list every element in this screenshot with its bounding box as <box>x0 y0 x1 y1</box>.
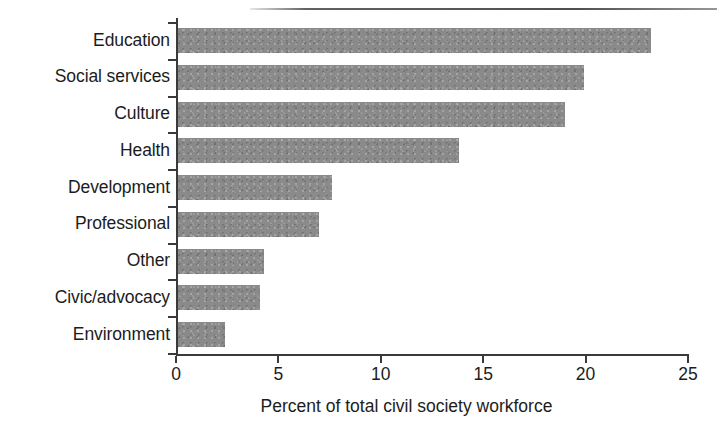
y-axis-tick <box>168 279 177 281</box>
category-label: Professional <box>2 215 170 233</box>
x-axis-tick-label: 5 <box>248 366 308 384</box>
x-axis-tick <box>585 356 587 363</box>
x-axis-tick <box>277 356 279 363</box>
category-label: Civic/advocacy <box>2 289 170 307</box>
bar <box>176 65 584 90</box>
x-axis-tick-label: 0 <box>146 366 206 384</box>
x-axis-title: Percent of total civil society workforce <box>0 396 717 417</box>
category-label: Development <box>2 179 170 197</box>
y-axis-line <box>176 18 178 355</box>
y-axis-tick <box>168 206 177 208</box>
category-label: Other <box>2 252 170 270</box>
x-axis-tick <box>687 356 689 363</box>
x-axis-tick <box>380 356 382 363</box>
x-axis-tick-label: 25 <box>658 366 717 384</box>
x-axis-tick-label: 20 <box>556 366 616 384</box>
x-axis-tick-label: 10 <box>351 366 411 384</box>
y-axis-tick <box>168 59 177 61</box>
category-axis-labels: EducationSocial servicesCultureHealthDev… <box>0 0 170 360</box>
y-axis-tick <box>168 96 177 98</box>
bar <box>176 138 459 163</box>
bar <box>176 249 264 274</box>
bar <box>176 28 651 53</box>
category-label: Health <box>2 142 170 160</box>
x-axis-line <box>176 354 689 356</box>
category-label: Education <box>2 32 170 50</box>
x-axis-tick-label: 15 <box>453 366 513 384</box>
category-label: Environment <box>2 326 170 344</box>
plot-area <box>176 18 688 354</box>
category-label: Culture <box>2 105 170 123</box>
x-axis-tick <box>175 356 177 363</box>
bar <box>176 285 260 310</box>
horizontal-bar-chart: EducationSocial servicesCultureHealthDev… <box>0 0 717 436</box>
y-axis-tick <box>168 316 177 318</box>
y-axis-tick <box>168 132 177 134</box>
x-axis-title-text: Percent of total civil society workforce <box>165 396 553 417</box>
bar <box>176 175 332 200</box>
bar <box>176 322 225 347</box>
category-label: Social services <box>2 68 170 86</box>
y-axis-tick <box>168 353 177 355</box>
bar <box>176 102 565 127</box>
bar <box>176 212 319 237</box>
y-axis-tick <box>168 22 177 24</box>
x-axis-tick <box>482 356 484 363</box>
y-axis-tick <box>168 169 177 171</box>
y-axis-tick <box>168 243 177 245</box>
